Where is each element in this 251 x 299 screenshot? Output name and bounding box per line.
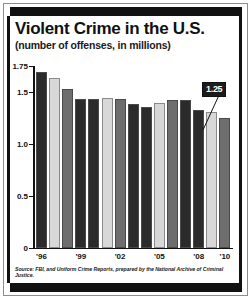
y-tick-mark: [29, 144, 33, 145]
bar: [219, 118, 230, 248]
bar: [206, 112, 217, 248]
y-tick-label: 0.5: [2, 192, 28, 201]
frame-band-top: [10, 7, 242, 16]
chart-subtitle: (number of offenses, in millions): [15, 39, 230, 51]
y-tick-label: 0: [2, 244, 28, 253]
bar: [167, 100, 178, 248]
callout-value-badge: 1.25: [202, 82, 226, 97]
bar: [62, 89, 73, 248]
x-tick-label: '96: [29, 252, 55, 261]
frame-band-right: [239, 16, 242, 283]
x-tick-label: '08: [186, 252, 212, 261]
bar: [115, 99, 126, 248]
y-tick-mark: [29, 248, 33, 249]
y-tick-mark: [29, 196, 33, 197]
x-tick-label: '99: [68, 252, 94, 261]
bar: [75, 99, 86, 248]
bar: [193, 110, 204, 248]
frame-band-bottom: [10, 283, 242, 292]
bar: [102, 98, 113, 248]
bar: [49, 78, 60, 248]
bar: [154, 103, 165, 248]
x-tick-label: '02: [107, 252, 133, 261]
y-tick-label: 1.75: [2, 62, 28, 71]
x-tick-label: '10: [212, 252, 238, 261]
chart-figure: Violent Crime in the U.S. (number of off…: [0, 0, 251, 299]
y-tick-label: 1.5: [2, 88, 28, 97]
bar: [88, 99, 99, 248]
y-tick-mark: [29, 92, 33, 93]
bar: [180, 100, 191, 248]
x-tick-label: '05: [146, 252, 172, 261]
bar: [141, 107, 152, 248]
chart-title: Violent Crime in the U.S.: [15, 19, 230, 38]
source-note: Source: FBI, and Uniform Crime Reports, …: [15, 266, 235, 278]
bar: [128, 104, 139, 248]
y-tick-mark: [29, 66, 33, 67]
bar: [36, 72, 47, 248]
y-tick-label: 1.0: [2, 140, 28, 149]
